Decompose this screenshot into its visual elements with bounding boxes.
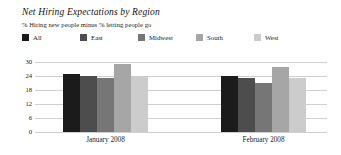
bar-west-january[interactable] xyxy=(131,76,148,132)
legend-label: West xyxy=(265,34,278,41)
y-axis-tick-label: 30 xyxy=(16,59,32,66)
x-axis-group-label: February 2008 xyxy=(221,136,306,144)
bar-midwest-january[interactable] xyxy=(97,78,114,132)
legend-label: East xyxy=(91,34,103,41)
bar-all-february[interactable] xyxy=(221,76,238,132)
bar-group xyxy=(63,62,148,132)
y-axis-tick-label: 6 xyxy=(16,115,32,122)
y-axis-tick-label: 12 xyxy=(16,101,32,108)
chart-figure: Net Hiring Expectations by Region % Hiri… xyxy=(0,0,341,155)
bar-east-february[interactable] xyxy=(238,78,255,132)
legend-swatch-icon xyxy=(138,34,145,41)
legend-swatch-icon xyxy=(22,34,29,41)
legend-swatch-icon xyxy=(196,34,203,41)
chart-title: Net Hiring Expectations by Region xyxy=(22,7,160,17)
legend-item-east[interactable]: East xyxy=(80,34,138,41)
y-axis: 3024181260 xyxy=(16,62,32,132)
legend-item-south[interactable]: South xyxy=(196,34,254,41)
chart-subtitle: % Hiring new people minus % letting peop… xyxy=(22,21,151,28)
y-axis-tick-label: 24 xyxy=(16,73,32,80)
bar-west-february[interactable] xyxy=(289,78,306,132)
chart-legend: All East Midwest South West xyxy=(22,34,312,41)
gridline xyxy=(35,132,327,133)
bar-south-february[interactable] xyxy=(272,67,289,132)
legend-swatch-icon xyxy=(80,34,87,41)
bar-east-january[interactable] xyxy=(80,76,97,132)
legend-label: All xyxy=(33,34,42,41)
legend-swatch-icon xyxy=(254,34,261,41)
bar-south-january[interactable] xyxy=(114,64,131,132)
legend-item-west[interactable]: West xyxy=(254,34,312,41)
legend-label: Midwest xyxy=(149,34,173,41)
y-axis-tick-label: 18 xyxy=(16,87,32,94)
legend-item-midwest[interactable]: Midwest xyxy=(138,34,196,41)
legend-item-all[interactable]: All xyxy=(22,34,80,41)
y-axis-tick-label: 0 xyxy=(16,129,32,136)
plot-area xyxy=(35,62,327,132)
bar-all-january[interactable] xyxy=(63,74,80,132)
legend-label: South xyxy=(207,34,223,41)
bar-midwest-february[interactable] xyxy=(255,83,272,132)
x-axis-group-label: January 2008 xyxy=(63,136,148,144)
bar-group xyxy=(221,62,306,132)
